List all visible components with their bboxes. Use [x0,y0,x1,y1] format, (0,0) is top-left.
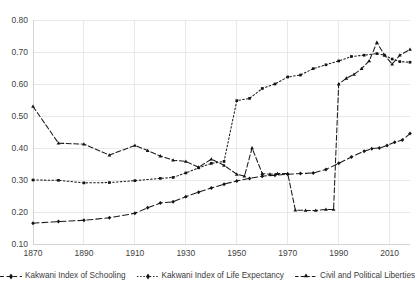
y-axis-ticks: 0.100.200.300.400.500.600.700.80 [11,15,28,249]
data-point-marker [57,179,60,182]
y-tick-label: 0.30 [11,175,28,185]
dashed-line-marker-icon [0,272,22,281]
data-point-marker [408,48,412,51]
data-point-marker [393,140,397,144]
data-point-marker [362,149,366,153]
legend-label-liberties: Civil and Political Liberties [320,272,415,280]
data-point-marker [108,181,111,184]
data-point-marker [134,179,137,182]
data-point-marker [363,54,366,57]
data-point-marker [385,143,389,147]
data-point-marker [398,60,401,63]
data-point-marker [197,190,201,194]
plot-area: 0.100.200.300.400.500.600.700.8018701890… [0,0,415,290]
data-point-marker [370,147,374,151]
data-point-marker [324,167,328,171]
series-3 [31,41,412,212]
x-tick-label: 2010 [380,248,399,258]
legend-item-schooling: Kakwani Index of Schooling [0,272,126,281]
data-point-marker [57,220,61,224]
data-point-marker [159,201,163,205]
x-axis-ticks: 18701890191019301950197019902010 [24,248,400,258]
data-point-marker [209,157,213,160]
legend-label-schooling: Kakwani Index of Schooling [25,272,126,280]
data-point-marker [409,61,412,64]
data-point-marker [299,172,303,176]
x-tick-label: 1970 [278,248,297,258]
data-point-marker [325,63,328,66]
data-point-marker [171,200,175,204]
legend-item-liberties: Civil and Political Liberties [295,272,415,281]
data-point-marker [108,216,112,220]
data-point-marker [274,83,277,86]
y-tick-label: 0.50 [11,111,28,121]
x-tick-label: 1870 [24,248,43,258]
x-tick-label: 1910 [125,248,144,258]
data-point-marker [210,186,214,190]
data-point-marker [261,87,264,90]
data-point-marker [83,182,86,185]
y-tick-label: 0.60 [11,79,28,89]
chart-legend: Kakwani Index of Schooling Kakwani Index… [0,266,415,286]
dashdot-line-marker-icon [295,272,317,281]
data-point-marker [172,176,175,179]
data-point-marker [146,206,150,210]
data-point-marker [235,99,238,102]
dotted-line-marker-icon [137,272,159,281]
y-tick-label: 0.80 [11,15,28,25]
data-point-marker [337,60,340,63]
legend-label-life-expectancy: Kakwani Index of Life Expectancy [162,272,284,280]
data-point-marker [31,105,35,108]
x-tick-label: 1950 [227,248,246,258]
y-tick-label: 0.70 [11,47,28,57]
data-point-marker [286,76,289,79]
data-point-marker [391,58,394,61]
data-point-marker [248,97,251,100]
x-tick-label: 1990 [329,248,348,258]
data-point-marker [299,74,302,77]
data-point-marker [82,218,86,222]
data-point-marker [350,155,354,159]
data-point-marker [367,59,371,62]
data-point-marker [32,179,35,182]
chart-container: 0.100.200.300.400.500.600.700.8018701890… [0,0,415,290]
data-point-marker [159,177,162,180]
data-point-marker [31,221,35,225]
data-point-marker [376,52,379,55]
data-point-marker [223,160,226,163]
data-point-marker [184,195,188,199]
data-point-marker [210,162,213,165]
legend-item-life-expectancy: Kakwani Index of Life Expectancy [137,272,284,281]
data-point-marker [311,171,315,175]
data-point-marker [133,144,137,147]
data-point-marker [337,161,341,165]
gridlines [33,20,410,244]
line-chart: 0.100.200.300.400.500.600.700.8018701890… [0,0,415,290]
data-point-marker [350,55,353,58]
y-tick-label: 0.40 [11,143,28,153]
data-point-marker [378,146,382,150]
data-point-marker [375,41,379,44]
data-point-marker [235,179,239,183]
y-tick-label: 0.20 [11,207,28,217]
x-tick-label: 1930 [176,248,195,258]
x-tick-label: 1890 [74,248,93,258]
data-point-marker [222,182,226,186]
data-point-marker [312,67,315,70]
data-point-marker [293,208,297,211]
axes [33,20,410,244]
data-point-marker [184,172,187,175]
